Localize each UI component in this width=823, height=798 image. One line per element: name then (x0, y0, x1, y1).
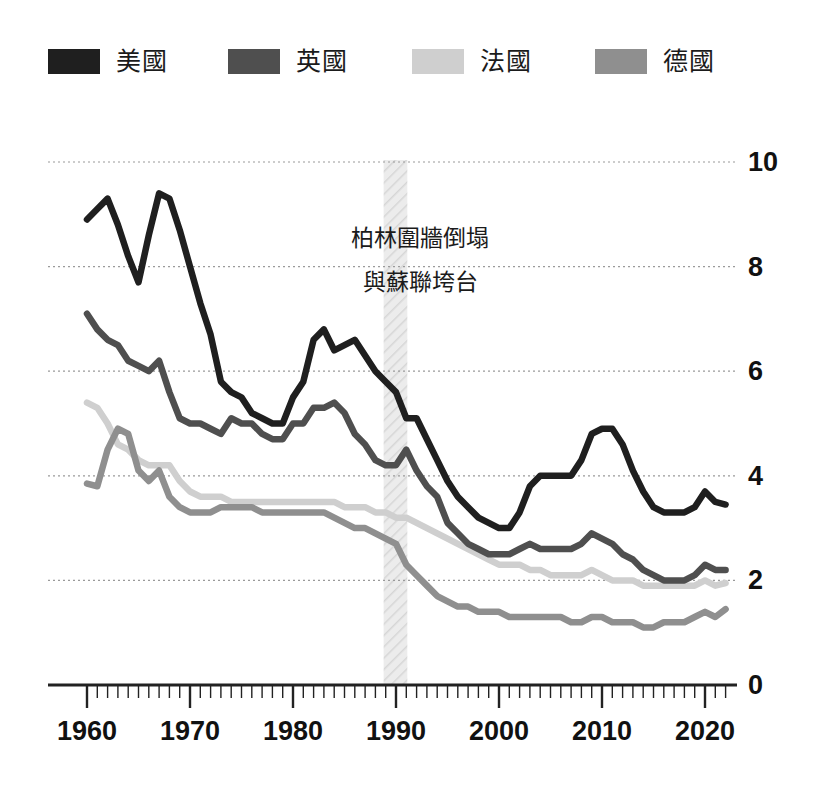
y-tick-label-10: 10 (748, 147, 778, 178)
annotation-line-2: 與蘇聯垮台 (300, 260, 540, 304)
x-tick-label-1960: 1960 (57, 716, 117, 747)
annotation-line-1: 柏林圍牆倒塌 (300, 216, 540, 260)
y-tick-label-2: 2 (748, 565, 763, 596)
y-tick-label-0: 0 (748, 670, 763, 701)
x-tick-label-1980: 1980 (263, 716, 323, 747)
x-axis (48, 685, 737, 708)
y-tick-label-8: 8 (748, 251, 763, 282)
chart-figure: 美國 英國 法國 德國 柏林圍牆倒塌 與蘇聯垮台 0 (0, 0, 823, 798)
x-tick-label-1970: 1970 (160, 716, 220, 747)
y-tick-label-6: 6 (748, 356, 763, 387)
annotation-text: 柏林圍牆倒塌 與蘇聯垮台 (300, 216, 540, 304)
x-tick-label-1990: 1990 (366, 716, 426, 747)
x-tick-label-2020: 2020 (675, 716, 735, 747)
x-tick-label-2010: 2010 (572, 716, 632, 747)
x-tick-label-2000: 2000 (469, 716, 529, 747)
y-tick-label-4: 4 (748, 460, 763, 491)
chart-plot-area (0, 0, 823, 798)
